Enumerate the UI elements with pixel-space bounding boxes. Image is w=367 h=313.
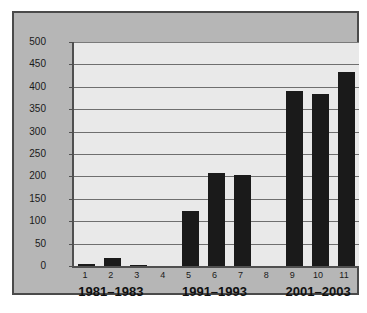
y-tick-label-100: 100 [6,216,46,226]
x-tick-label-7: 7 [228,270,252,280]
y-tick-mark-400 [69,87,74,88]
bar-10 [312,94,329,266]
y-tick-label-500: 500 [6,37,46,47]
group-label-2: 2001–2003 [258,284,367,299]
bar-6 [208,173,225,266]
chart-panel: 050100150200250300350400450500 123456789… [12,11,359,295]
x-tick-label-2: 2 [99,270,123,280]
bar-7 [234,175,251,266]
x-tick-label-5: 5 [177,270,201,280]
x-tick-label-6: 6 [203,270,227,280]
y-tick-mark-450 [69,64,74,65]
x-tick-label-10: 10 [306,270,330,280]
gridline-450 [74,64,359,65]
x-tick-label-1: 1 [73,270,97,280]
plot-area: 050100150200250300350400450500 [72,42,359,268]
group-label-0: 1981–1983 [51,284,171,299]
bar-9 [286,91,303,266]
y-tick-label-400: 400 [6,82,46,92]
gridline-400 [74,87,359,88]
y-tick-label-150: 150 [6,194,46,204]
y-tick-label-200: 200 [6,171,46,181]
bar-11 [338,72,355,266]
y-tick-label-250: 250 [6,149,46,159]
x-tick-label-3: 3 [125,270,149,280]
y-tick-mark-100 [69,221,74,222]
y-tick-label-50: 50 [6,239,46,249]
y-tick-mark-500 [69,42,74,43]
y-tick-mark-250 [69,154,74,155]
y-tick-mark-150 [69,199,74,200]
group-label-1: 1991–1993 [155,284,275,299]
y-tick-mark-50 [69,244,74,245]
y-tick-label-300: 300 [6,127,46,137]
bar-3 [130,265,147,266]
x-tick-label-4: 4 [151,270,175,280]
bar-5 [182,211,199,266]
y-tick-mark-200 [69,176,74,177]
bar-1 [78,264,95,266]
x-tick-label-11: 11 [332,270,356,280]
y-tick-label-350: 350 [6,104,46,114]
y-tick-mark-350 [69,109,74,110]
y-tick-mark-0 [69,266,74,267]
y-tick-label-0: 0 [6,261,46,271]
y-tick-label-450: 450 [6,59,46,69]
bar-2 [104,258,121,266]
chart-figure: 050100150200250300350400450500 123456789… [0,0,367,313]
x-tick-label-9: 9 [280,270,304,280]
x-tick-label-8: 8 [254,270,278,280]
y-tick-mark-300 [69,132,74,133]
gridline-500 [74,42,359,43]
